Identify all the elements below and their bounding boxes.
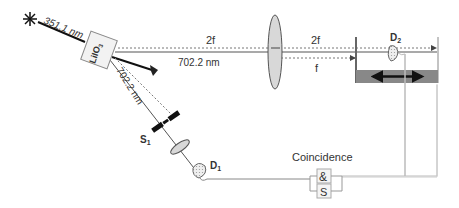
d1-signal-wire xyxy=(200,178,310,180)
beam-dump-icon xyxy=(150,65,158,76)
distance-2f-left: 2f xyxy=(206,34,216,46)
and-gate-symbol: & xyxy=(319,170,327,184)
detector-d1-icon xyxy=(193,163,206,178)
distance-f: f xyxy=(315,62,319,74)
counter-symbol: S xyxy=(320,186,327,198)
distance-2f-right: 2f xyxy=(311,34,321,46)
detector-d2-icon xyxy=(388,46,398,61)
slit-s1 xyxy=(151,110,180,132)
detector-d2-label: D2 xyxy=(390,32,401,44)
pump-source-star-icon xyxy=(23,12,37,26)
signal-wavelength-label: 702.2 nm xyxy=(178,57,220,68)
idler-wavelength-label: 702.2 nm xyxy=(114,65,145,106)
slit-label: S1 xyxy=(140,134,151,146)
spdc-setup-diagram: 351.1 nm 702.2 nm LiIO3 702.2 nm 2f 2f f… xyxy=(0,0,459,208)
lens xyxy=(268,15,282,89)
d2-wire-outline xyxy=(342,84,437,177)
coincidence-title: Coincidence xyxy=(292,151,353,163)
detector-d1-label: D1 xyxy=(210,160,221,172)
